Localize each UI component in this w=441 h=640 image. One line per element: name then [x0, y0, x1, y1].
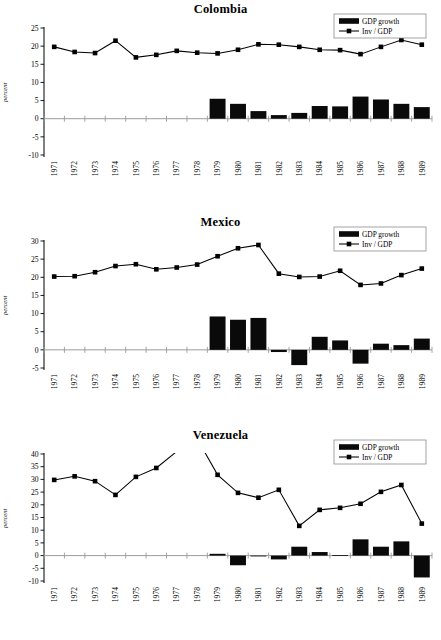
bar: [414, 556, 430, 578]
x-tick-label: 1976: [152, 161, 161, 176]
line-marker: [419, 266, 424, 271]
chart-panel-venezuela: Venezuelapercent-10-50510152025303540197…: [0, 426, 441, 639]
y-axis-label: percent: [1, 296, 8, 315]
x-tick-label: 1987: [377, 587, 386, 602]
x-tick-label: 1971: [50, 161, 59, 176]
x-tick-label: 1989: [418, 374, 427, 389]
x-tick-label: 1972: [70, 587, 79, 602]
y-tick-label: 10: [31, 78, 39, 87]
x-tick-label: 1975: [132, 161, 141, 176]
bar: [291, 350, 307, 365]
bar: [393, 104, 409, 119]
legend-label-bar: GDP growth: [362, 17, 400, 26]
bar: [353, 350, 369, 364]
x-tick-label: 1977: [172, 161, 181, 176]
x-tick-label: 1976: [152, 374, 161, 389]
line-marker: [277, 488, 282, 493]
legend: GDP growthInv / GDP: [334, 14, 426, 38]
chart-title: Colombia: [0, 2, 441, 17]
legend: GDP growthInv / GDP: [334, 227, 426, 251]
x-tick-label: 1982: [275, 374, 284, 389]
y-tick-label: 20: [31, 273, 39, 282]
bar: [332, 106, 348, 118]
line-marker: [174, 265, 179, 270]
x-tick-label: 1986: [356, 374, 365, 389]
y-axis-label: percent: [1, 83, 8, 102]
x-tick-label: 1982: [275, 587, 284, 602]
x-tick-label: 1979: [213, 587, 222, 602]
x-tick-label: 1977: [172, 374, 181, 389]
line-marker: [72, 474, 77, 479]
chart-title: Venezuela: [0, 428, 441, 443]
line-marker: [256, 243, 261, 248]
line-marker: [134, 55, 139, 60]
y-tick-label: 15: [31, 60, 39, 69]
bar: [250, 318, 266, 350]
y-tick-label: 5: [35, 327, 39, 336]
x-tick-label: 1985: [336, 161, 345, 176]
line-marker: [317, 274, 322, 279]
bar: [230, 320, 246, 350]
legend-label-bar: GDP growth: [362, 230, 400, 239]
line-marker: [93, 270, 98, 275]
chart-panel-colombia: Colombiapercent-10-505101520251971197219…: [0, 0, 441, 213]
legend-label-line: Inv / GDP: [362, 27, 392, 36]
line-marker: [113, 38, 118, 43]
x-tick-label: 1987: [377, 161, 386, 176]
bar: [271, 556, 287, 560]
bar: [312, 337, 328, 350]
x-tick-label: 1980: [234, 161, 243, 176]
bar: [312, 106, 328, 119]
y-tick-label: 30: [31, 237, 39, 246]
line-marker: [154, 466, 159, 471]
y-tick-label: 0: [35, 346, 39, 355]
legend-label-bar: GDP growth: [362, 443, 400, 452]
bar: [291, 547, 307, 556]
y-tick-label: 35: [31, 462, 39, 471]
bar: [210, 554, 226, 556]
line-marker: [277, 271, 282, 276]
x-tick-label: 1983: [295, 587, 304, 602]
x-tick-label: 1988: [397, 161, 406, 176]
bar: [230, 556, 246, 566]
bar: [373, 99, 389, 118]
x-tick-label: 1981: [254, 161, 263, 176]
bar: [332, 555, 348, 556]
bar: [414, 339, 430, 350]
line-marker: [419, 521, 424, 526]
x-tick-label: 1980: [234, 374, 243, 389]
x-tick-label: 1986: [356, 587, 365, 602]
x-tick-label: 1972: [70, 161, 79, 176]
line-marker: [236, 47, 241, 52]
line-marker: [236, 491, 241, 496]
line-marker: [195, 50, 200, 55]
line-marker: [72, 50, 77, 55]
bar: [271, 115, 287, 119]
x-tick-label: 1971: [50, 587, 59, 602]
y-tick-label: -10: [28, 577, 38, 586]
y-tick-label: -10: [28, 151, 38, 160]
plot-area: -10-505101520251971197219731974197519761…: [0, 0, 441, 213]
x-tick-label: 1974: [111, 374, 120, 389]
y-tick-label: 0: [35, 114, 39, 123]
bar: [271, 350, 287, 352]
bar: [210, 99, 226, 119]
x-tick-label: 1981: [254, 587, 263, 602]
bar: [332, 340, 348, 349]
x-tick-label: 1975: [132, 374, 141, 389]
line-marker: [297, 275, 302, 280]
line-marker: [399, 483, 404, 488]
x-tick-label: 1971: [50, 374, 59, 389]
line-marker: [113, 264, 118, 269]
line-marker: [277, 42, 282, 47]
x-tick-label: 1981: [254, 374, 263, 389]
line-marker: [52, 274, 57, 279]
line-marker: [174, 49, 179, 54]
legend-label-line: Inv / GDP: [362, 453, 392, 462]
line-marker: [134, 262, 139, 267]
bar: [393, 541, 409, 555]
y-tick-label: 5: [35, 96, 39, 105]
y-axis-label: percent: [1, 509, 8, 528]
x-tick-label: 1988: [397, 587, 406, 602]
bar: [414, 107, 430, 119]
